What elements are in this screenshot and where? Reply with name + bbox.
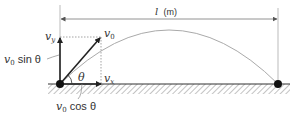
trajectory-curve (60, 30, 278, 84)
v0-cos-theta-label: v0 cos θ (56, 100, 96, 114)
vy-label: vy (45, 30, 56, 44)
vx-label: vx (104, 72, 114, 86)
ground-hatching (48, 84, 290, 94)
ground (48, 84, 290, 94)
v0-sin-theta-leader (47, 55, 59, 59)
landing-point (274, 80, 282, 88)
theta-label: θ (78, 71, 85, 84)
launch-point (56, 80, 64, 88)
v0-sin-theta-label: v0 sin θ (4, 53, 41, 67)
projectile-diagram: l (m) θ vy v0 vx v0 sin θ v0 cos θ (0, 0, 294, 116)
distance-label: l (m) (155, 6, 177, 17)
v0-label: v0 (104, 27, 115, 41)
